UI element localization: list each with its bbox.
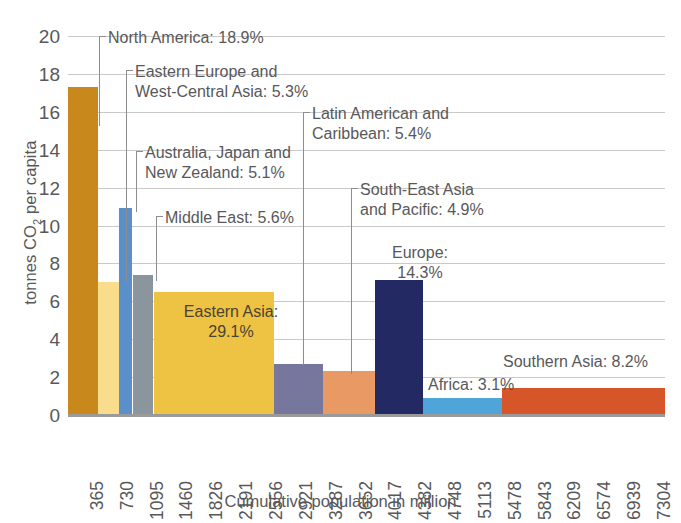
- leader-tick-eastern-europe: [126, 70, 133, 71]
- y-axis-tick-label: 20: [26, 27, 60, 46]
- callout-eastern-asia: Eastern Asia: 29.1%: [172, 302, 290, 341]
- leader-tick-north-america: [99, 36, 106, 37]
- bar-north-america: [68, 87, 98, 415]
- leader-line-australia-japan-nz: [136, 151, 137, 212]
- gridline: [68, 263, 665, 264]
- y-axis-tick-label: 16: [26, 102, 60, 121]
- co2-per-capita-bar-chart: tonnes CO2 per capita 02468101214161820 …: [0, 0, 681, 523]
- bar-southern-asia: [502, 388, 665, 415]
- y-axis-tick-label: 10: [26, 216, 60, 235]
- leader-tick-middle-east: [156, 216, 163, 217]
- bar-africa: [423, 398, 502, 415]
- y-axis-tick-label: 2: [26, 368, 60, 387]
- bar-latin-american-and-caribbean: [274, 364, 323, 415]
- y-axis-tick-label: 18: [26, 64, 60, 83]
- bar-south-east-asia-and-pacific: [323, 371, 375, 415]
- leader-line-middle-east: [156, 216, 157, 281]
- leader-tick-australia-japan-nz: [136, 151, 143, 152]
- bar-europe: [375, 280, 422, 415]
- callout-middle-east: Middle East: 5.6%: [165, 208, 294, 228]
- leader-line-latin-america: [303, 112, 304, 365]
- callout-north-america: North America: 18.9%: [108, 28, 264, 48]
- bar-middle-east: [133, 275, 154, 415]
- callout-southern-asia: Southern Asia: 8.2%: [503, 352, 648, 372]
- callout-eastern-europe: Eastern Europe and West-Central Asia: 5.…: [135, 62, 308, 101]
- x-axis-title: Cumulative population in million: [0, 492, 681, 511]
- leader-line-south-east-asia: [351, 188, 352, 374]
- y-axis-tick-label: 8: [26, 254, 60, 273]
- y-axis-tick-label: 4: [26, 330, 60, 349]
- leader-tick-south-east-asia: [351, 188, 358, 189]
- callout-south-east-asia: South-East Asia and Pacific: 4.9%: [360, 180, 484, 219]
- leader-line-north-america: [99, 36, 100, 126]
- y-axis-tick-label: 12: [26, 178, 60, 197]
- y-axis-tick-label: 6: [26, 292, 60, 311]
- callout-australia-japan-nz: Australia, Japan and New Zealand: 5.1%: [145, 143, 291, 182]
- leader-line-eastern-europe: [126, 70, 127, 282]
- y-axis-tick-labels: 02468101214161820: [12, 0, 60, 523]
- callout-europe: Europe: 14.3%: [375, 243, 465, 282]
- callout-latin-america: Latin American and Caribbean: 5.4%: [312, 104, 449, 143]
- y-axis-tick-label: 0: [26, 406, 60, 425]
- callout-africa: Africa: 3.1%: [428, 375, 514, 395]
- y-axis-tick-label: 14: [26, 140, 60, 159]
- leader-tick-latin-america: [303, 112, 310, 113]
- bar-eastern-europe-and-west-central-asia: [98, 282, 119, 415]
- gridline: [68, 226, 665, 227]
- x-axis-tick-labels: 3657301095146018262191255629213287365240…: [68, 417, 665, 487]
